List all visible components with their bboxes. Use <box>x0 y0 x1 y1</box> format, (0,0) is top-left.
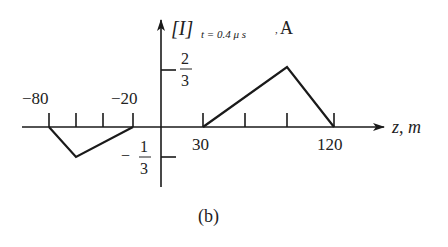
svg-text:3: 3 <box>181 72 189 89</box>
x-label-neg80: −80 <box>22 89 49 108</box>
svg-text:,: , <box>275 23 278 35</box>
y-label-neg-one-third: − 1 3 <box>121 138 151 177</box>
svg-text:−: − <box>121 147 130 164</box>
positive-pulse <box>203 67 334 127</box>
x-label-neg20: −20 <box>111 89 138 108</box>
x-label-30: 30 <box>192 135 209 154</box>
x-ticks <box>49 113 334 127</box>
svg-text:[I]: [I] <box>171 17 193 39</box>
y-axis-label: [I] t = 0.4 μ s , A <box>171 17 293 40</box>
svg-text:t = 0.4 μ s: t = 0.4 μ s <box>201 28 246 40</box>
svg-text:2: 2 <box>181 50 189 67</box>
current-distribution-diagram: −80 −20 30 120 2 3 − 1 3 [I] t = 0.4 μ s… <box>0 0 448 247</box>
svg-text:1: 1 <box>140 138 148 155</box>
x-axis-label: z, m <box>391 117 421 137</box>
svg-text:A: A <box>280 18 293 38</box>
y-label-two-thirds: 2 3 <box>180 50 192 89</box>
svg-text:3: 3 <box>140 160 148 177</box>
figure-caption: (b) <box>198 206 219 227</box>
x-label-120: 120 <box>317 135 343 154</box>
svg-text:z, m: z, m <box>391 117 421 137</box>
